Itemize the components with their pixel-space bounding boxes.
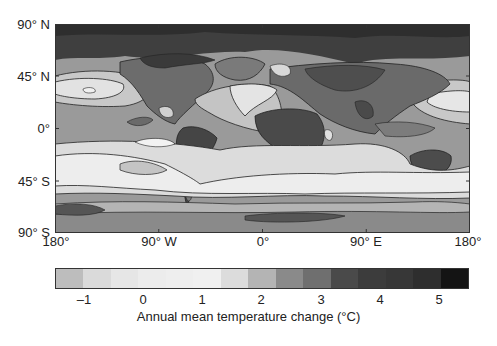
y-tick-90n: 90° N (0, 17, 50, 32)
colorbar-title: Annual mean temperature change (°C) (0, 309, 497, 324)
colorbar-tick-neg1: –1 (77, 292, 91, 307)
colorbar-segment (303, 269, 330, 288)
colorbar-segment (166, 269, 193, 288)
colorbar-segment (358, 269, 385, 288)
colorbar-segment (413, 269, 440, 288)
colorbar-tick-5: 5 (435, 292, 442, 307)
colorbar-tick-3: 3 (317, 292, 324, 307)
x-tick-0: 0° (257, 234, 269, 249)
colorbar-tick-0: 0 (139, 292, 146, 307)
colorbar-segment (276, 269, 303, 288)
colorbar-segment (56, 269, 83, 288)
x-tick-180e: 180° (455, 234, 482, 249)
x-tick-90w: 90° W (141, 234, 177, 249)
colorbar-segment (386, 269, 413, 288)
colorbar-tick-4: 4 (376, 292, 383, 307)
colorbar-segment (111, 269, 138, 288)
colorbar-segment (441, 269, 468, 288)
y-tick-45s: 45° S (0, 174, 50, 189)
temperature-change-map (55, 24, 470, 233)
x-tick-90e: 90° E (350, 234, 382, 249)
colorbar-segment (83, 269, 110, 288)
colorbar (55, 268, 469, 289)
x-tick-180w: 180° (43, 234, 70, 249)
y-tick-0: 0° (0, 121, 50, 136)
colorbar-tick-1: 1 (198, 292, 205, 307)
colorbar-tick-2: 2 (257, 292, 264, 307)
colorbar-segment (138, 269, 165, 288)
colorbar-segment (331, 269, 358, 288)
colorbar-segment (193, 269, 220, 288)
colorbar-segment (248, 269, 275, 288)
y-tick-45n: 45° N (0, 69, 50, 84)
colorbar-segment (221, 269, 248, 288)
